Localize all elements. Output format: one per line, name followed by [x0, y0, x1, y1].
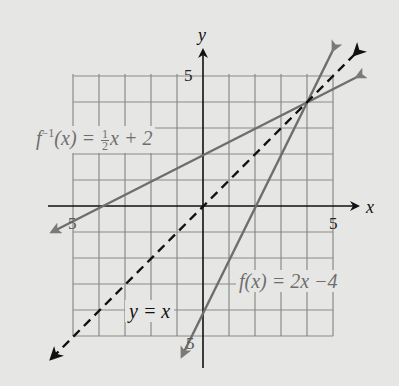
tick-x-pos: 5 — [329, 215, 338, 232]
finv-arg: (x) = — [54, 127, 100, 149]
finv-rest: x + 2 — [110, 127, 152, 149]
identity-label: y = x — [125, 300, 174, 322]
graph-canvas — [0, 0, 399, 386]
finv-superscript: −1 — [42, 126, 55, 140]
y-axis-label: y — [198, 26, 206, 44]
tick-y-pos: 5 — [184, 67, 193, 84]
f-label: f(x) = 2x −4 — [236, 270, 341, 292]
frac-den: 2 — [101, 141, 109, 152]
f-inverse-label: f−1(x) = 12x + 2 — [33, 126, 155, 153]
half-fraction: 12 — [101, 129, 109, 152]
tick-x-neg: 5 — [68, 215, 77, 232]
x-axis-label: x — [366, 198, 374, 216]
tick-y-neg: 5 — [186, 335, 195, 352]
